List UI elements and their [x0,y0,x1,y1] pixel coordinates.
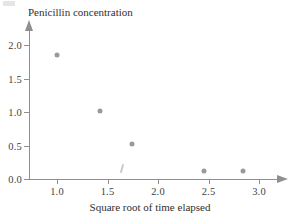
y-axis-title: Penicillin concentration [28,6,133,18]
x-axis-line [29,179,279,180]
data-point [55,53,60,58]
y-tick-label: 1.5 [8,73,22,84]
data-point [240,169,245,174]
x-tick-mark [57,179,58,184]
y-tick-mark [24,179,30,180]
data-point [129,142,134,147]
y-tick-label: 1.0 [8,107,22,118]
data-point [98,108,103,113]
x-tick-mark [209,179,210,184]
y-tick-mark [24,45,30,46]
x-tick-label: 1.5 [101,186,115,197]
x-tick-mark [108,179,109,184]
chart-figure: Penicillin concentration 1.01.52.02.53.0… [0,0,300,224]
y-axis-line [29,30,30,180]
x-axis-arrow-icon [277,175,288,183]
scan-artifact-stray-mark [120,164,124,173]
y-axis-arrow-icon [25,20,33,31]
x-tick-label: 3.0 [252,186,266,197]
x-tick-label: 1.0 [50,186,64,197]
y-tick-label: 2.0 [8,40,22,51]
x-tick-label: 2.0 [151,186,165,197]
y-tick-label: 0.5 [8,140,22,151]
y-tick-mark [24,146,30,147]
y-tick-mark [24,79,30,80]
x-tick-label: 2.5 [202,186,216,197]
x-axis-title: Square root of time elapsed [0,201,300,213]
x-tick-mark [259,179,260,184]
y-tick-mark [24,112,30,113]
scatter-plot: Penicillin concentration 1.01.52.02.53.0… [0,0,300,224]
x-tick-mark [158,179,159,184]
y-tick-label: 0.0 [8,174,22,185]
data-point [202,168,207,173]
